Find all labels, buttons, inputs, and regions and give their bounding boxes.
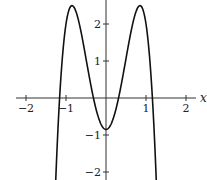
- y-tick-label: 1: [94, 55, 101, 68]
- function-plot: −2−112 −2−112 x: [0, 0, 207, 180]
- x-tick-label: −1: [58, 102, 74, 115]
- y-tick-label: 2: [94, 18, 101, 31]
- x-axis-label: x: [200, 91, 207, 105]
- x-tick-label: −2: [18, 102, 34, 115]
- y-tick-label: −2: [85, 166, 101, 179]
- x-tick-label: 1: [143, 102, 150, 115]
- x-tick-label: 2: [183, 102, 190, 115]
- y-tick-label: −1: [85, 129, 101, 142]
